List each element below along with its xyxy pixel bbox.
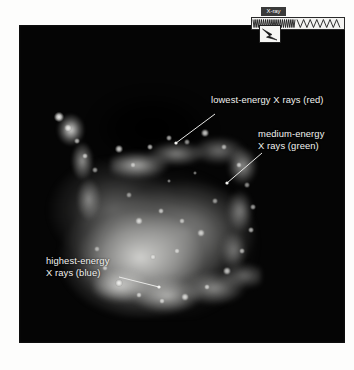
figure-root: lowest-energy X rays (red) medium-energy… <box>0 0 354 370</box>
bright-knot <box>94 246 99 251</box>
callout-medium-energy-line1: medium-energy <box>258 128 324 140</box>
bright-knot <box>115 145 123 153</box>
bright-knot <box>174 248 180 254</box>
bright-knot <box>158 208 165 215</box>
xray-band-marker[interactable]: X-ray <box>259 7 287 43</box>
bright-knot <box>82 153 89 160</box>
bright-knot <box>221 144 227 150</box>
remnant-rim-bottom <box>93 261 261 323</box>
bright-knot <box>197 229 204 236</box>
bright-knot <box>193 171 198 176</box>
bright-knot <box>147 144 153 150</box>
leader-red <box>176 114 215 143</box>
xray-swatch-glyph <box>260 26 280 42</box>
bright-knot <box>159 298 165 304</box>
callout-lowest-energy: lowest-energy X rays (red) <box>211 94 324 106</box>
bright-knot <box>181 293 189 301</box>
callout-highest-energy-line2: X rays (blue) <box>46 267 109 279</box>
bright-knot <box>179 218 185 224</box>
remnant-dark-cavity <box>77 87 227 179</box>
supernova-remnant-body <box>47 103 269 318</box>
bright-knot <box>130 162 135 167</box>
bright-knot <box>136 292 143 299</box>
xray-band-swatch <box>259 25 281 43</box>
bright-knot <box>126 192 131 197</box>
bright-knot <box>204 284 210 290</box>
callout-highest-energy-line1: highest-energy <box>46 255 109 267</box>
xray-band-label: X-ray <box>261 7 286 16</box>
remnant-rim-top <box>111 133 253 185</box>
leader-green-tip <box>225 181 228 184</box>
bright-knot <box>212 198 217 203</box>
bright-knot <box>166 135 172 141</box>
bright-knot <box>74 138 80 144</box>
bright-knot <box>115 279 123 287</box>
leader-blue <box>119 277 159 287</box>
remnant-rim-left <box>49 113 113 233</box>
remnant-rim-right <box>215 145 277 277</box>
leader-blue-tip <box>157 285 160 288</box>
leader-red-tip <box>174 141 177 144</box>
callout-highest-energy: highest-energy X rays (blue) <box>46 255 109 278</box>
astronomical-image-panel: lowest-energy X rays (red) medium-energy… <box>19 25 345 343</box>
bright-knot <box>54 112 64 122</box>
bright-knot <box>184 139 189 144</box>
bright-knot <box>248 227 255 234</box>
bright-knot <box>135 217 143 225</box>
bright-knot <box>239 248 245 254</box>
bright-knot <box>223 267 230 274</box>
callout-lowest-energy-text: lowest-energy X rays (red) <box>211 94 324 106</box>
bright-knot <box>64 124 71 131</box>
leader-green <box>227 153 262 183</box>
callout-medium-energy: medium-energy X rays (green) <box>258 128 324 151</box>
bright-knot <box>167 179 172 184</box>
callout-medium-energy-line2: X rays (green) <box>258 140 324 152</box>
callout-leader-lines <box>19 25 345 343</box>
bright-knot <box>236 162 242 168</box>
bright-knot <box>150 254 156 260</box>
bright-knot <box>244 182 249 187</box>
bright-knot <box>92 167 98 173</box>
bright-knot <box>250 204 256 210</box>
bright-knot <box>201 129 208 136</box>
